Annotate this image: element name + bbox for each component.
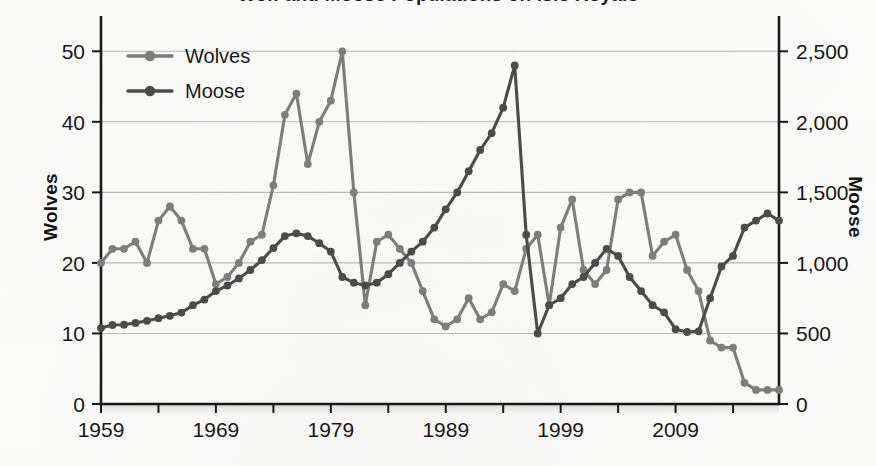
- data-point: [407, 259, 415, 267]
- data-point: [373, 238, 381, 246]
- data-point: [683, 266, 691, 274]
- legend-item-moose[interactable]: Moose: [128, 80, 245, 102]
- data-point: [235, 259, 243, 267]
- data-point: [591, 280, 599, 288]
- data-point: [557, 294, 565, 302]
- data-point: [384, 270, 392, 278]
- data-point: [614, 196, 622, 204]
- x-axis-ticks: 195919691979198919992009: [78, 418, 699, 441]
- data-point: [212, 280, 220, 288]
- data-point: [109, 245, 117, 253]
- data-point: [189, 301, 197, 309]
- data-point: [660, 238, 668, 246]
- data-point: [718, 263, 726, 271]
- x-tick-label: 2009: [652, 418, 699, 441]
- data-point: [511, 287, 519, 295]
- data-point: [637, 287, 645, 295]
- data-point: [373, 279, 381, 287]
- data-point: [270, 181, 278, 189]
- data-point: [143, 317, 151, 325]
- data-point: [752, 386, 760, 394]
- data-point: [534, 231, 542, 239]
- data-point: [270, 244, 278, 252]
- data-point: [764, 386, 772, 394]
- data-point: [488, 308, 496, 316]
- x-tick-label: 1959: [78, 418, 125, 441]
- data-point: [212, 287, 220, 295]
- data-point: [155, 217, 163, 225]
- data-point: [580, 273, 588, 281]
- data-point: [718, 344, 726, 352]
- data-point: [775, 217, 783, 225]
- series-moose: [97, 62, 783, 338]
- data-point: [626, 273, 634, 281]
- data-point: [534, 330, 542, 338]
- legend-item-wolves[interactable]: Wolves: [128, 45, 250, 67]
- data-point: [155, 314, 163, 322]
- data-point: [396, 245, 404, 253]
- data-point: [603, 245, 611, 253]
- data-point: [430, 315, 438, 323]
- data-point: [672, 325, 680, 333]
- y-axis-left-ticks: 01020304050: [62, 40, 101, 416]
- x-tick-label: 1989: [422, 418, 469, 441]
- data-point: [511, 62, 519, 70]
- data-point: [453, 315, 461, 323]
- data-point: [442, 323, 450, 331]
- data-point: [407, 248, 415, 256]
- data-point: [97, 259, 105, 267]
- data-point: [201, 296, 209, 304]
- x-tick-label: 1999: [537, 418, 584, 441]
- x-tick-label: 1969: [193, 418, 240, 441]
- data-point: [568, 280, 576, 288]
- data-point: [603, 266, 611, 274]
- data-point: [706, 294, 714, 302]
- y-right-tick-label: 500: [796, 322, 831, 345]
- data-point: [741, 224, 749, 232]
- data-point: [361, 301, 369, 309]
- data-point: [683, 328, 691, 336]
- data-point: [476, 146, 484, 154]
- y-right-tick-label: 1,500: [796, 181, 849, 204]
- data-point: [120, 321, 128, 329]
- data-point: [649, 301, 657, 309]
- data-point: [327, 97, 335, 105]
- data-point: [178, 309, 186, 317]
- data-point: [315, 239, 323, 247]
- y-left-tick-label: 50: [62, 40, 85, 63]
- y-left-tick-label: 40: [62, 111, 85, 134]
- data-point: [247, 266, 255, 274]
- data-point: [166, 203, 174, 211]
- data-point: [706, 337, 714, 345]
- data-point: [729, 252, 737, 260]
- data-point: [247, 238, 255, 246]
- data-point: [465, 167, 473, 175]
- data-point: [350, 279, 358, 287]
- legend-label: Wolves: [185, 45, 250, 67]
- y-left-tick-label: 30: [62, 181, 85, 204]
- data-point: [189, 245, 197, 253]
- x-tick-label: 1979: [307, 418, 354, 441]
- data-point: [465, 294, 473, 302]
- data-point: [384, 231, 392, 239]
- data-point: [258, 231, 266, 239]
- data-point: [327, 248, 335, 256]
- chart-figure: Wolf and Moose Populations on Isle Royal…: [0, 0, 876, 466]
- data-point: [557, 224, 565, 232]
- data-point: [752, 217, 760, 225]
- data-point: [626, 189, 634, 197]
- data-point: [775, 386, 783, 394]
- data-point: [97, 324, 105, 332]
- y-left-tick-label: 0: [73, 393, 85, 416]
- data-point: [488, 129, 496, 137]
- data-point: [178, 217, 186, 225]
- data-point: [132, 238, 140, 246]
- data-point: [430, 224, 438, 232]
- data-point: [695, 287, 703, 295]
- legend-marker: [145, 86, 155, 96]
- data-point: [304, 232, 312, 240]
- data-point: [315, 118, 323, 126]
- data-point: [258, 256, 266, 264]
- legend-marker: [145, 51, 155, 61]
- data-point: [281, 232, 289, 240]
